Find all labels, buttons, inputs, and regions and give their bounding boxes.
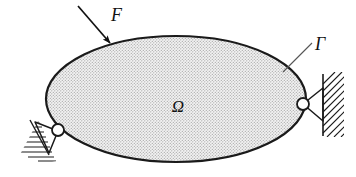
boundary-leader-line [283, 43, 312, 72]
mechanics-diagram: Ω F Γ [0, 0, 356, 177]
pin-support-left [14, 120, 64, 161]
boundary-label-group: Γ [283, 34, 326, 72]
force-arrow-group: F [78, 5, 123, 43]
force-label-f: F [110, 5, 123, 25]
boundary-label-gamma: Γ [314, 34, 326, 54]
support-right-pin-circle [297, 98, 309, 110]
figure-container: Ω F Γ [0, 0, 356, 177]
pin-support-right [297, 72, 346, 137]
force-arrow-line [78, 6, 110, 43]
support-left-pin-circle [52, 124, 64, 136]
domain-label-omega: Ω [172, 97, 184, 116]
support-right-hatching [323, 72, 346, 137]
